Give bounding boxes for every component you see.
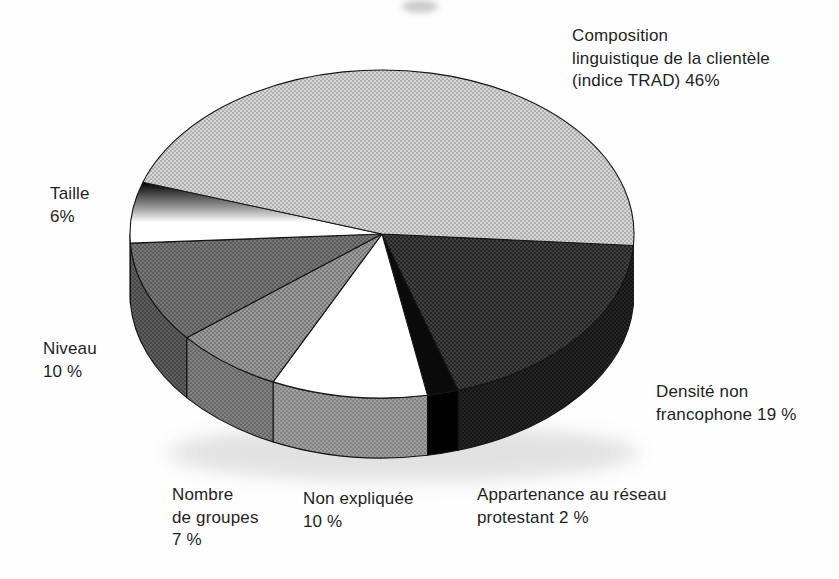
pie-label-niveau: Niveau10 % <box>43 338 97 383</box>
pie-label-line: Densité non <box>656 381 796 404</box>
pie-label-line: linguistique de la clientèle <box>572 48 770 71</box>
pie-label-line: Taille <box>50 183 90 206</box>
pie-label-non-expliquee: Non expliquée10 % <box>303 488 414 533</box>
pie-label-line: 6% <box>50 206 90 229</box>
pie-label-nombre-de-groupes: Nombrede groupes7 % <box>172 484 259 552</box>
pie-label-line: Niveau <box>43 338 97 361</box>
pie-label-line: 10 % <box>43 361 97 384</box>
pie-label-appartenance: Appartenance au réseauprotestant 2 % <box>477 484 667 529</box>
pie-label-line: 10 % <box>303 511 414 534</box>
pie-label-line: francophone 19 % <box>656 404 796 427</box>
pie-chart-figure: Densité nonfrancophone 19 %Appartenance … <box>0 0 839 579</box>
pie-label-line: Nombre <box>172 484 259 507</box>
pie-label-line: Non expliquée <box>303 488 414 511</box>
pie-labels-layer: Densité nonfrancophone 19 %Appartenance … <box>0 0 839 579</box>
pie-label-line: (indice TRAD) 46% <box>572 70 770 93</box>
pie-label-line: de groupes <box>172 507 259 530</box>
pie-label-taille: Taille6% <box>50 183 90 228</box>
pie-label-densite: Densité nonfrancophone 19 % <box>656 381 796 426</box>
pie-label-line: 7 % <box>172 529 259 552</box>
pie-label-composition: Compositionlinguistique de la clientèle(… <box>572 25 770 93</box>
pie-label-line: protestant 2 % <box>477 507 667 530</box>
pie-label-line: Appartenance au réseau <box>477 484 667 507</box>
pie-label-line: Composition <box>572 25 770 48</box>
